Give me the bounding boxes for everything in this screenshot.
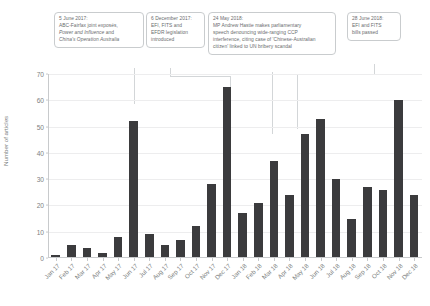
x-label-slot: Dec 18 [406,260,422,306]
y-tick-label: 60 [37,97,44,104]
bar-slot [313,74,329,258]
annotation-title-italic: China's Operation Australia [59,37,119,42]
bar [238,213,247,258]
annotation-line: ABC-Fairfax joint exposés, [59,23,139,30]
x-label-slot: Feb 18 [251,260,267,306]
annotation-line: 6 December 2017: [151,16,200,23]
x-axis-line [48,257,422,258]
annotation-line: 28 June 2018: [352,16,396,23]
annotation-line: China's Operation Australia [59,37,139,44]
bar [332,179,341,258]
bar-slot [204,74,220,258]
bar [363,187,372,258]
x-label-slot: Oct 18 [375,260,391,306]
bar-slot [406,74,422,258]
bar-slot [173,74,189,258]
bar-slot [95,74,111,258]
bar [207,184,216,258]
bar [192,226,201,258]
x-label-slot: Jul 17 [141,260,157,306]
y-tick-label: 50 [37,123,44,130]
bar-slot [344,74,360,258]
y-tick-label: 30 [37,176,44,183]
bar-slot [141,74,157,258]
x-label-slot: Jul 18 [328,260,344,306]
bar-slot [188,74,204,258]
bar-slot [266,74,282,258]
annotation-callout-2017-06-05: 5 June 2017:ABC-Fairfax joint exposés,Po… [54,12,144,48]
annotation-line: interference, citing case of 'Chinese-Au… [213,37,331,44]
annotation-line: speech denouncing wide-ranging CCP [213,30,331,37]
bar-slot [375,74,391,258]
bar-series [48,74,422,258]
bar [270,161,279,258]
bar-slot [126,74,142,258]
annotation-callout-2017-12-06: 6 December 2017:EFI, FITS andEFDR legisl… [146,12,205,48]
annotation-callout-2018-05-24: 24 May 2018:MP Andrew Hastie makes parli… [208,12,336,55]
bar [347,219,356,258]
bar-slot [79,74,95,258]
annotation-title-italic: Power and Influence [59,30,104,35]
y-tick-label: 10 [37,228,44,235]
x-label-slot: Jan 17 [48,260,64,306]
bar [176,240,185,258]
bar-slot [235,74,251,258]
annotation-line: bills passed [352,30,396,37]
bar-slot [219,74,235,258]
x-label-slot: Feb 17 [64,260,80,306]
x-axis-labels: Jan 17Feb 17Mar 17Apr 17May 17Jun 17Jul … [48,260,422,306]
bar [161,245,170,258]
annotation-line: EFDR legislation [151,30,200,37]
x-label-slot: Apr 18 [282,260,298,306]
y-tick-label: 0 [40,255,44,262]
x-label-slot: Apr 17 [95,260,111,306]
x-tick-label: Jan 17 [43,262,61,280]
plot-area: 010203040506070 [48,74,422,258]
x-label-slot: Dec 17 [219,260,235,306]
bar [394,100,403,258]
x-label-slot: Jun 17 [126,260,142,306]
x-label-slot: Jan 18 [235,260,251,306]
bar [316,119,325,258]
y-tick-label: 70 [37,71,44,78]
x-label-slot: Sep 18 [360,260,376,306]
annotation-line: 5 June 2017: [59,16,139,23]
bar [129,121,138,258]
annotation-line: EFI and FITS [352,23,396,30]
x-label-slot: May 18 [297,260,313,306]
x-label-slot: Sep 17 [173,260,189,306]
annotation-line: Power and Influence and [59,30,139,37]
x-label-slot: Oct 17 [188,260,204,306]
bar [410,195,419,258]
bar-slot [360,74,376,258]
x-label-slot: Mar 18 [266,260,282,306]
y-tick-label: 40 [37,149,44,156]
x-label-slot: Jun 18 [313,260,329,306]
bar-slot [48,74,64,258]
bar-slot [328,74,344,258]
bar [145,234,154,258]
leader-line-2018-06-28-stem [374,64,375,74]
bar-slot [251,74,267,258]
x-label-slot: Nov 17 [204,260,220,306]
annotation-line: 24 May 2018: [213,16,331,23]
bar-slot [110,74,126,258]
bar-slot [64,74,80,258]
x-label-slot: Nov 18 [391,260,407,306]
annotation-callout-2018-06-28: 28 June 2018:EFI and FITSbills passed [347,12,401,41]
bar [254,203,263,258]
bar [379,190,388,258]
bar [285,195,294,258]
bar [67,245,76,258]
x-label-slot: Mar 17 [79,260,95,306]
bar [223,87,232,258]
bar-slot [391,74,407,258]
x-label-slot: Aug 18 [344,260,360,306]
x-label-slot: Aug 17 [157,260,173,306]
annotation-line: MP Andrew Hastie makes parliamentary [213,23,331,30]
x-label-slot: May 17 [110,260,126,306]
annotation-line: citizen' linked to UN bribery scandal [213,44,331,51]
y-tick-label: 20 [37,202,44,209]
bar-slot [157,74,173,258]
bar [301,134,310,258]
